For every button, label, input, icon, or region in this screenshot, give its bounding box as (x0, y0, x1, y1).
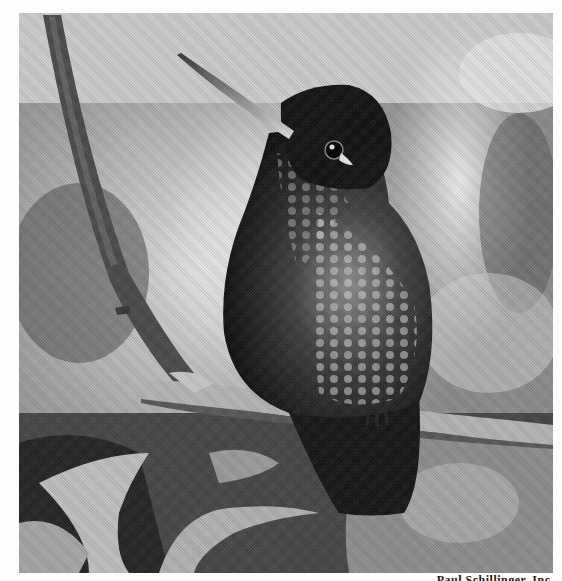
photo-credit: Paul Schillinger, Inc. (437, 570, 554, 581)
photo-illustration (19, 13, 553, 573)
hummingbird-photo (19, 13, 553, 573)
